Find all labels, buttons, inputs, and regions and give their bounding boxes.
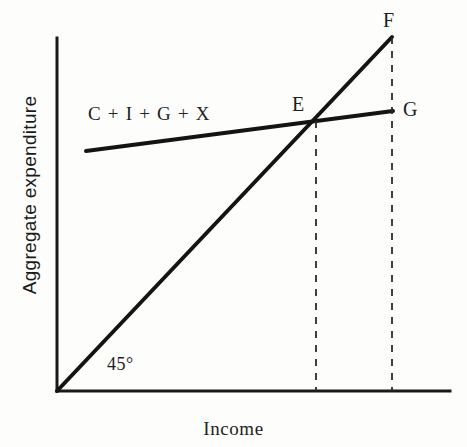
diagram-canvas bbox=[0, 0, 467, 447]
x-axis-label: Income bbox=[0, 419, 467, 438]
y-axis-label-wrapper: Aggregate expenditure bbox=[19, 75, 45, 315]
point-label-f: F bbox=[383, 10, 395, 30]
point-label-g: G bbox=[403, 99, 418, 119]
aggregate-expenditure-line-label: C + I + G + X bbox=[88, 104, 211, 123]
aggregate-expenditure-diagram: E F G C + I + G + X 45° Income Aggregate… bbox=[0, 0, 467, 447]
y-axis-label: Aggregate expenditure bbox=[19, 75, 41, 315]
point-label-e: E bbox=[292, 94, 305, 114]
forty-five-degree-line bbox=[57, 37, 392, 391]
forty-five-degree-angle-label: 45° bbox=[107, 355, 134, 373]
